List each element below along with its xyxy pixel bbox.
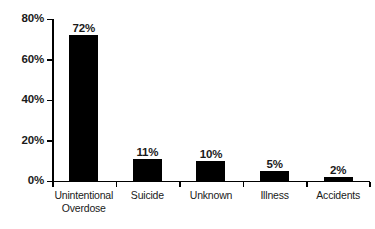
bar-chart: 80% 60% 40% 20% 0% 72% 11% 10% 5% 2%	[0, 0, 375, 229]
x-axis-tick-0	[52, 182, 54, 187]
y-axis-label-40: 40%	[4, 94, 44, 105]
x-axis-category-label-unintentional-overdose: Unintentional Overdose	[52, 189, 116, 214]
bar-group-unintentional-overdose: 72%	[52, 19, 116, 181]
x-axis-tick-4	[306, 182, 308, 187]
category-label-line2: Overdose	[52, 202, 116, 215]
x-axis-tick-2	[179, 182, 181, 187]
bar-group-unknown: 10%	[179, 19, 243, 181]
x-axis-tick-1	[116, 182, 118, 187]
bar-illness[interactable]	[260, 171, 289, 181]
x-axis-category-label-suicide: Suicide	[116, 189, 180, 202]
y-axis-label-0: 0%	[4, 175, 44, 186]
plot-area: 72% 11% 10% 5% 2%	[52, 19, 370, 181]
x-axis-category-label-illness: Illness	[243, 189, 307, 202]
bar-group-illness: 5%	[243, 19, 307, 181]
category-label-line1: Unknown	[190, 189, 232, 201]
x-axis-tick-3	[243, 182, 245, 187]
category-label-line1: Suicide	[131, 189, 164, 201]
category-label-line1: Illness	[260, 189, 288, 201]
category-label-line1: Unintentional	[54, 189, 113, 201]
x-axis-category-label-accidents: Accidents	[306, 189, 370, 202]
bar-group-suicide: 11%	[116, 19, 180, 181]
bar-value-label: 5%	[243, 158, 307, 170]
bar-value-label: 10%	[179, 148, 243, 160]
bar-value-label: 72%	[52, 22, 116, 34]
bar-accidents[interactable]	[324, 177, 353, 181]
y-axis-label-20: 20%	[4, 135, 44, 146]
y-axis-label-60: 60%	[4, 54, 44, 65]
bar-unintentional-overdose[interactable]	[69, 35, 98, 181]
bar-suicide[interactable]	[133, 159, 162, 181]
category-label-line1: Accidents	[316, 189, 360, 201]
bar-value-label: 2%	[306, 164, 370, 176]
bar-group-accidents: 2%	[306, 19, 370, 181]
bar-unknown[interactable]	[196, 161, 225, 181]
bar-value-label: 11%	[116, 146, 180, 158]
x-axis-tick-5	[369, 182, 371, 187]
y-axis-label-80: 80%	[4, 13, 44, 24]
x-axis-category-label-unknown: Unknown	[179, 189, 243, 202]
